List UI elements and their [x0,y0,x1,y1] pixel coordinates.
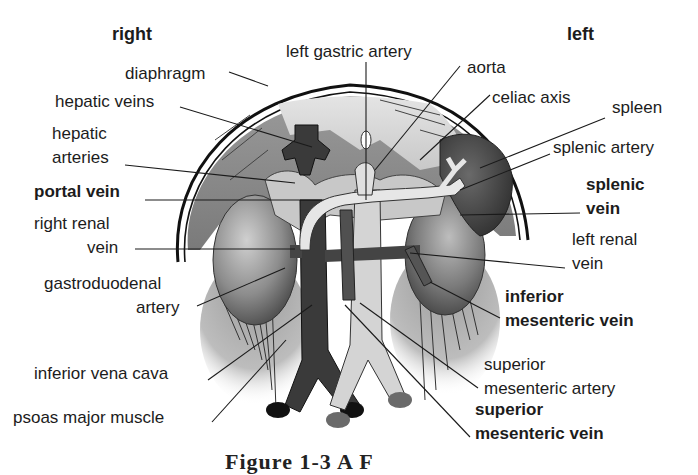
label-inferior-vena-cava: inferior vena cava [34,362,168,386]
superior-mesenteric-vein-vessel [340,210,355,300]
label-diaphragm: diaphragm [125,62,205,86]
label-aorta: aorta [467,56,506,80]
label-celiac-axis: celiac axis [492,86,570,110]
label-splenic-vein-line2: vein [586,197,620,221]
label-inferior-mesenteric-vein-line1: inferior [505,285,564,309]
label-splenic-artery: splenic artery [553,136,654,160]
label-left-renal-vein-line1: left renal [572,228,637,252]
label-superior-mesenteric-vein-line2: mesenteric vein [475,422,604,446]
label-portal-vein: portal vein [34,180,120,204]
label-left-renal-vein-line2: vein [572,252,603,276]
label-left-gastric-artery: left gastric artery [286,40,412,64]
label-inferior-mesenteric-vein-line2: mesenteric vein [505,309,634,333]
label-right-renal-vein-line2: vein [87,236,118,260]
label-hepatic-arteries-line2: arteries [52,146,109,170]
figure-caption: Figure 1-3 A F [225,449,374,475]
label-superior-mesenteric-artery-line1: superior [484,353,545,377]
label-right-renal-vein-line1: right renal [34,212,110,236]
label-spleen: spleen [612,96,662,120]
celiac-axis-vessel [355,163,375,195]
label-gastroduodenal-artery-line1: gastroduodenal [44,272,161,296]
orientation-right-label: right [112,22,152,46]
label-superior-mesenteric-vein-line1: superior [475,398,543,422]
orientation-left-label: left [567,22,594,46]
label-hepatic-arteries-line1: hepatic [52,122,107,146]
label-psoas-major-muscle: psoas major muscle [13,406,164,430]
label-splenic-vein-line1: splenic [586,173,645,197]
label-hepatic-veins: hepatic veins [55,90,154,114]
label-gastroduodenal-artery-line2: artery [136,296,179,320]
